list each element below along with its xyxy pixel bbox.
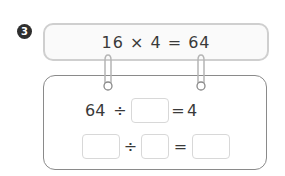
divide-sign: ÷ [120, 137, 141, 156]
equation-row-1: 64 ÷ = 4 [85, 97, 197, 123]
equation-row-2: ÷ = [82, 133, 230, 159]
problem-number-badge: 3 [17, 24, 32, 39]
divisor-blank-input[interactable] [141, 134, 169, 159]
quotient-value: 4 [187, 101, 197, 120]
problem-number: 3 [21, 27, 28, 37]
quotient-blank-input[interactable] [192, 134, 230, 159]
divide-sign: ÷ [109, 101, 131, 120]
dividend-blank-input[interactable] [82, 134, 120, 159]
divisor-blank-input[interactable] [131, 98, 169, 123]
binder-ring-right-icon [194, 54, 208, 92]
equals-sign: = [169, 101, 187, 120]
dividend-value: 64 [85, 101, 109, 120]
given-equation-card: 16 × 4 = 64 [43, 23, 269, 61]
binder-ring-left-icon [101, 54, 115, 92]
equals-sign: = [169, 137, 192, 156]
given-equation: 16 × 4 = 64 [101, 33, 210, 52]
